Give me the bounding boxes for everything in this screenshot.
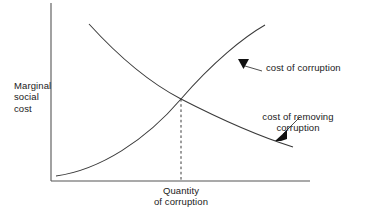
- curve-cost-of-corruption: [56, 25, 265, 176]
- leader-line-rising: [245, 66, 262, 71]
- y-axis-label-line-2: social: [14, 91, 51, 102]
- y-axis-label-line-1: Marginal: [14, 80, 51, 91]
- economics-diagram: Marginal social cost Quantity of corrupt…: [0, 0, 379, 216]
- annotation-cost-of-removing-corruption-line-1: cost of removing: [219, 111, 377, 122]
- x-axis-label: Quantity of corruption: [107, 185, 255, 208]
- annotation-cost-of-corruption: cost of corruption: [266, 62, 341, 73]
- x-axis-label-line-2: of corruption: [107, 196, 255, 207]
- plot-area: [0, 0, 379, 216]
- triangle-down-arrowhead-icon: [238, 59, 249, 69]
- annotation-cost-of-removing-corruption: cost of removing corruption: [219, 111, 377, 134]
- x-axis-label-line-1: Quantity: [107, 185, 255, 196]
- annotation-cost-of-corruption-text: cost of corruption: [266, 62, 341, 73]
- y-axis-label: Marginal social cost: [14, 80, 51, 114]
- annotation-cost-of-removing-corruption-line-2: corruption: [219, 122, 377, 133]
- y-axis-label-line-3: cost: [14, 103, 51, 114]
